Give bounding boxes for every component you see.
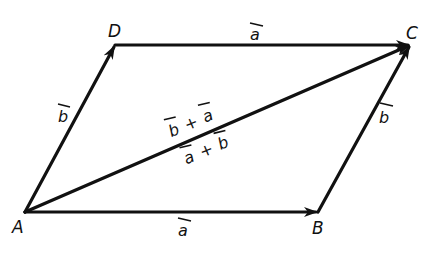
diag-top-b: b (165, 120, 182, 141)
label-vec-ad: b (58, 104, 70, 126)
label-vec-ab: a (178, 218, 191, 240)
point-c-label: C (406, 23, 418, 43)
diag-top-a: a (200, 105, 216, 126)
diag-bot-b: b (215, 132, 232, 153)
diag-bot-plus: + (196, 139, 216, 162)
vector-ad (25, 47, 114, 212)
vec-dc-text: a (250, 25, 260, 44)
label-vec-dc: a (250, 23, 263, 44)
parallelogram-diagram: A B C D a a b b b + a a + b (0, 0, 427, 253)
vec-bc-text: b (379, 108, 389, 127)
label-vec-bc: b (379, 103, 393, 127)
diag-top-plus: + (181, 112, 201, 135)
vec-ad-text: b (58, 107, 68, 126)
point-b-label: B (312, 218, 324, 238)
label-diag-top: b + a (164, 101, 218, 141)
diag-bot-a: a (181, 147, 197, 168)
point-d-label: D (108, 21, 121, 41)
vector-bc (318, 47, 409, 212)
vec-ab-text: a (178, 221, 188, 240)
point-a-label: A (11, 217, 24, 237)
vector-ac-diagonal (25, 46, 408, 212)
